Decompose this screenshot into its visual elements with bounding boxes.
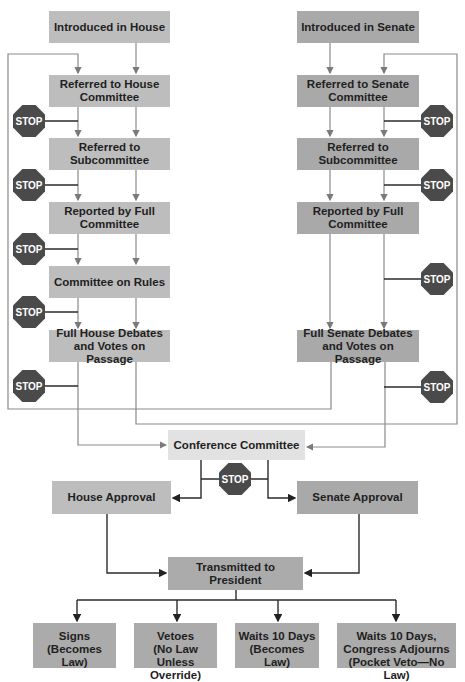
house-approval-label: House Approval bbox=[68, 491, 156, 504]
stop-sign-icon: STOP bbox=[13, 105, 45, 137]
outcome-waits-box: Waits 10 Days (Becomes Law) bbox=[235, 623, 319, 668]
outcome-line: Override) bbox=[150, 669, 201, 682]
outcome-line: Vetoes bbox=[157, 630, 194, 643]
stop-sign-icon: STOP bbox=[421, 105, 453, 137]
outcome-line: (No Law Unless bbox=[137, 643, 214, 669]
house-reported-label: Reported by Full Committee bbox=[63, 205, 156, 231]
house-approval-box: House Approval bbox=[52, 481, 171, 514]
outcome-line: Waits 10 Days, bbox=[356, 630, 436, 643]
stop-label: STOP bbox=[423, 180, 450, 191]
outcome-line: Waits 10 Days bbox=[239, 630, 316, 643]
house-subcommittee-box: Referred to Subcommittee bbox=[49, 138, 170, 170]
stop-label: STOP bbox=[423, 116, 450, 127]
stop-label: STOP bbox=[15, 244, 42, 255]
senate-introduced-label: Introduced in Senate bbox=[301, 21, 415, 34]
house-debate-label: Full House Debates and Votes on Passage bbox=[52, 327, 167, 366]
stop-sign-icon: STOP bbox=[421, 263, 453, 295]
stop-label: STOP bbox=[423, 382, 450, 393]
senate-subcommittee-label: Referred to Subcommittee bbox=[315, 141, 401, 167]
senate-committee-label: Referred to Senate Committee bbox=[300, 78, 416, 104]
stop-sign-icon: STOP bbox=[219, 463, 251, 495]
senate-subcommittee-box: Referred to Subcommittee bbox=[297, 138, 419, 170]
stop-label: STOP bbox=[423, 274, 450, 285]
house-committee-box: Referred to House Committee bbox=[49, 75, 170, 107]
senate-debate-box: Full Senate Debates and Votes on Passage bbox=[297, 330, 419, 362]
senate-reported-box: Reported by Full Committee bbox=[297, 202, 419, 234]
house-rules-label: Committee on Rules bbox=[54, 276, 165, 289]
stop-label: STOP bbox=[15, 381, 42, 392]
outcome-line: (Becomes Law) bbox=[238, 643, 316, 669]
house-introduced-box: Introduced in House bbox=[49, 11, 170, 43]
house-committee-label: Referred to House Committee bbox=[52, 78, 167, 104]
stop-sign-icon: STOP bbox=[13, 169, 45, 201]
stop-label: STOP bbox=[15, 116, 42, 127]
house-reported-box: Reported by Full Committee bbox=[49, 202, 170, 234]
house-debate-box: Full House Debates and Votes on Passage bbox=[49, 330, 170, 362]
senate-approval-label: Senate Approval bbox=[312, 491, 402, 504]
president-box: Transmitted to President bbox=[168, 557, 303, 590]
senate-approval-box: Senate Approval bbox=[297, 481, 418, 514]
senate-debate-label: Full Senate Debates and Votes on Passage bbox=[300, 327, 416, 366]
outcome-line: (Pocket Veto—No Law) bbox=[340, 656, 453, 682]
stop-label: STOP bbox=[221, 474, 248, 485]
house-subcommittee-label: Referred to Subcommittee bbox=[67, 141, 152, 167]
conference-committee-box: Conference Committee bbox=[168, 430, 305, 460]
outcome-signs-box: Signs (Becomes Law) bbox=[33, 623, 116, 668]
outcome-line: Congress Adjourns bbox=[343, 643, 449, 656]
outcome-vetoes-box: Vetoes (No Law Unless Override) bbox=[134, 623, 217, 668]
stop-sign-icon: STOP bbox=[13, 296, 45, 328]
stop-sign-icon: STOP bbox=[13, 370, 45, 402]
house-rules-box: Committee on Rules bbox=[49, 266, 170, 298]
outcome-line: Signs bbox=[59, 630, 90, 643]
senate-introduced-box: Introduced in Senate bbox=[297, 11, 419, 43]
president-label: Transmitted to President bbox=[171, 561, 300, 587]
conference-committee-label: Conference Committee bbox=[174, 439, 300, 452]
stop-sign-icon: STOP bbox=[421, 169, 453, 201]
stop-label: STOP bbox=[15, 180, 42, 191]
outcome-line: (Becomes Law) bbox=[36, 643, 113, 669]
house-introduced-label: Introduced in House bbox=[54, 21, 165, 34]
stop-label: STOP bbox=[15, 307, 42, 318]
stop-sign-icon: STOP bbox=[421, 371, 453, 403]
senate-reported-label: Reported by Full Committee bbox=[311, 205, 405, 231]
senate-committee-box: Referred to Senate Committee bbox=[297, 75, 419, 107]
stop-sign-icon: STOP bbox=[13, 233, 45, 265]
outcome-pocket-veto-box: Waits 10 Days, Congress Adjourns (Pocket… bbox=[337, 623, 456, 668]
